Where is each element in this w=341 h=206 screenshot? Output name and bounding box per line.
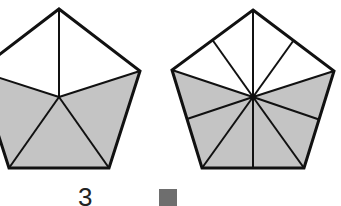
center-point-right <box>250 94 256 100</box>
pentagon-left <box>0 9 140 168</box>
pentagon-right <box>172 10 334 168</box>
pentagon-diagram <box>0 0 341 206</box>
number-label: 3 <box>78 184 92 206</box>
color-swatch <box>159 189 177 206</box>
